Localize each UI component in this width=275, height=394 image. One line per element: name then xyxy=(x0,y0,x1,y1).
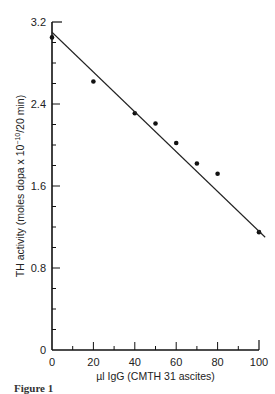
data-point xyxy=(215,171,220,176)
y-axis-title: TH activity (moles dopa x 10−10/20 min) xyxy=(14,95,26,277)
data-point xyxy=(50,35,55,40)
data-point xyxy=(153,121,158,126)
y-tick-label: 0.8 xyxy=(31,262,46,274)
y-tick-label: 0 xyxy=(40,344,46,356)
data-point xyxy=(174,141,179,146)
y-tick-label: 3.2 xyxy=(31,16,46,28)
y-tick-label: 2.4 xyxy=(31,98,46,110)
x-axis-title: µl IgG (CMTH 31 ascites) xyxy=(96,370,215,382)
x-tick-label: 80 xyxy=(211,356,223,368)
x-tick-label: 20 xyxy=(87,356,99,368)
regression-line xyxy=(52,32,265,237)
x-tick-label: 0 xyxy=(49,356,55,368)
x-tick-label: 60 xyxy=(170,356,182,368)
y-tick-label: 1.6 xyxy=(31,180,46,192)
figure-caption: Figure 1 xyxy=(14,382,53,394)
x-tick-label: 100 xyxy=(250,356,268,368)
data-point xyxy=(91,79,96,84)
x-tick-label: 40 xyxy=(129,356,141,368)
data-point xyxy=(195,161,200,166)
